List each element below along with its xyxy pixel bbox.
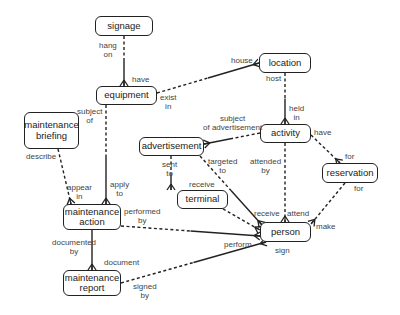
- entity-advertisement: advertisement: [139, 137, 204, 156]
- entity-equipment: equipment: [96, 86, 157, 105]
- relationship-label: exist in: [160, 93, 176, 111]
- relationship-label: subject of: [77, 107, 102, 125]
- entity-location: location: [259, 53, 311, 73]
- edge-activity-advertisement: [232, 133, 260, 139]
- entity-signage: signage: [95, 16, 153, 36]
- relationship-label: signed by: [133, 282, 157, 300]
- relationship-label: attended by: [250, 157, 281, 175]
- relationship-label: appear in: [67, 183, 92, 201]
- entity-maintenance-briefing: maintenance briefing: [24, 112, 79, 149]
- crows-foot-icon: [203, 140, 210, 143]
- relationship-label: for: [354, 184, 363, 193]
- er-diagram: signageequipmentlocationactivityadvertis…: [0, 0, 400, 315]
- relationship-label: make: [316, 222, 336, 231]
- entity-maintenance-action: maintenance action: [63, 204, 121, 230]
- relationship-label: host: [266, 74, 281, 83]
- relationship-label: have: [132, 75, 149, 84]
- edge-maintenance_action-person: [191, 231, 261, 236]
- edge-advertisement-person: [231, 191, 262, 226]
- entity-terminal: terminal: [177, 190, 228, 209]
- relationship-label: have: [314, 128, 331, 137]
- relationship-label: performed by: [124, 207, 160, 225]
- relationship-label: held in: [289, 104, 304, 122]
- edge-equipment-location: [208, 63, 259, 78]
- relationship-lines: [0, 0, 400, 315]
- edge-equipment-location: [157, 78, 208, 93]
- relationship-label: subject of advertisement: [203, 114, 262, 132]
- relationship-label: hang on: [99, 41, 117, 59]
- entity-activity: activity: [260, 124, 311, 143]
- entity-person: person: [260, 222, 311, 242]
- relationship-label: house: [231, 56, 253, 65]
- relationship-label: apply to: [110, 180, 129, 198]
- relationship-label: sent to: [162, 160, 177, 178]
- relationship-label: targeted to: [208, 157, 237, 175]
- relationship-label: document: [104, 258, 139, 267]
- edge-activity-reservation: [311, 135, 340, 163]
- relationship-label: describe: [26, 152, 56, 161]
- relationship-label: for: [345, 152, 354, 161]
- relationship-label: receive: [189, 180, 215, 189]
- relationship-label: receive: [254, 209, 280, 218]
- relationship-label: documented by: [52, 238, 96, 256]
- relationship-label: attend: [287, 209, 309, 218]
- entity-reservation: reservation: [322, 163, 378, 183]
- crows-foot-icon: [260, 244, 267, 246]
- edge-maintenance_action-person: [121, 226, 191, 231]
- edge-reservation-person: [311, 183, 345, 224]
- relationship-label: perform: [224, 240, 252, 249]
- relationship-label: sign: [275, 246, 290, 255]
- entity-maintenance-report: maintenance report: [63, 270, 121, 296]
